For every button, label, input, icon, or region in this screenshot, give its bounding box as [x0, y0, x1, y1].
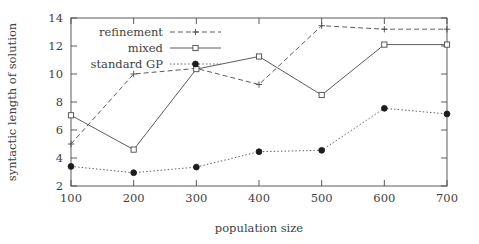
data-point-marker — [68, 113, 73, 118]
plot-area: 2468101214 100200300400500600700 refinem… — [0, 0, 479, 244]
x-tick-label: 400 — [248, 191, 270, 205]
legend-label-refinement: refinement — [99, 25, 163, 39]
x-tick-label: 700 — [436, 191, 458, 205]
series-line — [71, 108, 447, 172]
data-point-marker — [193, 164, 199, 170]
legend-label-standard-gp: standard GP — [91, 57, 164, 71]
y-tick-label: 14 — [48, 11, 63, 25]
data-point-marker — [319, 92, 324, 97]
y-tick-label: 4 — [56, 151, 63, 165]
x-tick-label: 600 — [373, 191, 395, 205]
y-axis-label: syntactic length of solution — [5, 22, 19, 181]
y-tick-label: 8 — [56, 95, 63, 109]
chart-legend: refinementmixedstandard GP — [91, 25, 221, 71]
series-refinement — [68, 23, 450, 148]
data-point-marker — [444, 111, 450, 117]
data-point-marker — [444, 26, 450, 32]
x-tick-label: 200 — [123, 191, 145, 205]
chart-figure: 2468101214 100200300400500600700 refinem… — [0, 0, 479, 244]
data-point-marker — [319, 147, 325, 153]
y-tick-label: 6 — [56, 123, 63, 137]
data-point-marker — [131, 170, 137, 176]
data-point-marker — [194, 67, 199, 72]
x-tick-label: 100 — [60, 191, 82, 205]
data-point-marker — [131, 147, 136, 152]
x-axis-label: population size — [215, 221, 304, 235]
data-point-marker — [382, 42, 387, 47]
series-standard-gp — [68, 105, 450, 175]
data-series-group — [68, 23, 450, 176]
data-point-marker — [193, 61, 199, 67]
y-tick-label: 10 — [48, 67, 63, 81]
data-point-marker — [256, 54, 261, 59]
data-point-marker — [192, 29, 198, 35]
data-point-marker — [381, 105, 387, 111]
data-point-marker — [193, 45, 198, 50]
x-axis-ticks: 100200300400500600700 — [60, 18, 458, 205]
y-tick-label: 12 — [48, 39, 63, 53]
x-tick-label: 500 — [311, 191, 333, 205]
data-point-marker — [444, 42, 449, 47]
data-point-marker — [256, 149, 262, 155]
data-point-marker — [68, 164, 74, 170]
data-point-marker — [381, 26, 387, 32]
legend-label-mixed: mixed — [128, 41, 164, 55]
x-tick-label: 300 — [185, 191, 207, 205]
